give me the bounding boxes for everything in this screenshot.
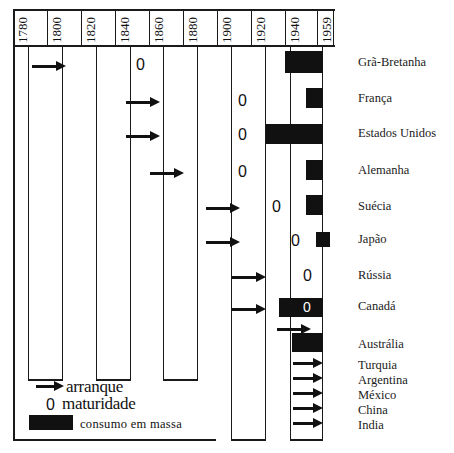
- arranque-arrow-russia: [232, 272, 266, 283]
- country-label-gra-bretanha: Grã-Bretanha: [358, 55, 426, 70]
- frame-bottom-border: [13, 439, 216, 441]
- arranque-arrow-alemanha: [150, 168, 184, 179]
- arranque-arrow-india: [293, 418, 323, 429]
- legend-arrow-icon: [36, 381, 64, 392]
- maturidade-zero-japao: 0: [291, 233, 300, 249]
- frame-top-border: [13, 9, 335, 11]
- axis-tick-1900-head: [217, 9, 218, 46]
- axis-year-label-1780: 1780: [16, 12, 29, 43]
- axis-tick-1840-head: [115, 9, 116, 46]
- legend-black-bar-icon: [29, 415, 73, 430]
- country-label-suecia: Suécia: [358, 199, 391, 214]
- axis-year-label-1959: 1959: [320, 12, 333, 43]
- legend-label-consumo-em-massa: consumo em massa: [80, 418, 182, 431]
- arranque-arrow-argentina: [293, 373, 323, 384]
- arranque-arrow-mexico: [293, 388, 323, 399]
- axis-year-label-1800: 1800: [50, 12, 63, 43]
- axis-year-label-1900: 1900: [220, 12, 233, 43]
- axis-year-label-1840: 1840: [118, 12, 131, 43]
- maturidade-zero-franca: 0: [238, 93, 247, 109]
- country-label-china: China: [358, 403, 388, 418]
- arranque-arrow-suecia: [206, 203, 240, 214]
- gridline-1780-right: [28, 47, 29, 380]
- legend-label-arranque: arranque: [66, 378, 123, 395]
- country-label-australia: Austrália: [358, 337, 404, 352]
- axis-tick-1940-head: [285, 9, 286, 46]
- column-cap-1940-1959: [290, 439, 323, 441]
- consumo-bar-franca: [306, 88, 323, 108]
- gridline-1920: [265, 47, 266, 440]
- consumo-bar-suecia: [306, 195, 323, 215]
- consumo-bar-canada: [279, 298, 323, 317]
- axis-tick-1820-head: [81, 9, 82, 46]
- country-label-estados-unidos: Estados Unidos: [358, 126, 436, 141]
- arranque-arrow-japao: [206, 237, 240, 248]
- country-label-canada: Canadá: [358, 299, 395, 314]
- axis-tick-1800-head: [47, 9, 48, 46]
- arranque-arrow-estados-unidos: [126, 131, 160, 142]
- country-label-india: India: [358, 418, 384, 433]
- axis-tick-1920-head: [251, 9, 252, 46]
- country-label-russia: Rússia: [358, 268, 391, 283]
- arranque-arrow-canada: [232, 304, 266, 315]
- gridline-1820: [96, 47, 97, 380]
- gridline-1800: [62, 47, 63, 380]
- axis-tick-1860-head: [149, 9, 150, 46]
- axis-year-label-1920: 1920: [254, 12, 267, 43]
- arranque-arrow-turquia: [293, 358, 323, 369]
- country-label-mexico: México: [358, 388, 396, 403]
- country-label-turquia: Turquia: [358, 358, 397, 373]
- axis-tick-1780-head: [13, 9, 14, 46]
- maturidade-zero-suecia: 0: [272, 199, 281, 215]
- maturidade-zero-gra-bretanha: 0: [136, 57, 145, 73]
- consumo-bar-japao: [316, 232, 330, 247]
- arranque-arrow-franca: [126, 97, 160, 108]
- consumo-bar-australia: [292, 333, 323, 352]
- axis-tick-1880-head: [183, 9, 184, 46]
- axis-year-label-1820: 1820: [84, 12, 97, 43]
- stages-of-growth-chart: 1780 1800 1820 1840 1860 1880 1900 1920 …: [0, 0, 454, 453]
- column-cap-1900-1920: [231, 439, 266, 441]
- country-label-alemanha: Alemanha: [358, 163, 409, 178]
- legend-label-maturidade: maturidade: [62, 395, 135, 412]
- axis-header-right-edge: [333, 9, 334, 46]
- gridline-1880: [197, 47, 198, 380]
- maturidade-zero-estados-unidos: 0: [238, 127, 247, 143]
- axis-tick-1959-head: [317, 9, 318, 46]
- axis-year-label-1940: 1940: [288, 12, 301, 43]
- axis-year-label-1860: 1860: [152, 12, 165, 43]
- consumo-bar-gra-bretanha: [285, 51, 323, 73]
- maturidade-zero-alemanha: 0: [238, 164, 247, 180]
- country-label-argentina: Argentina: [358, 373, 408, 388]
- consumo-bar-alemanha: [306, 160, 323, 180]
- consumo-bar-estados-unidos: [266, 124, 323, 144]
- maturidade-zero-russia: 0: [303, 268, 312, 284]
- column-cap-1860-1880: [163, 379, 198, 381]
- arranque-arrow-gra-bretanha: [32, 61, 66, 72]
- gridline-1860: [163, 47, 164, 380]
- country-label-franca: França: [358, 91, 392, 106]
- gridline-1780-left: [13, 47, 14, 440]
- country-label-japao: Japão: [358, 232, 386, 247]
- axis-year-label-1880: 1880: [186, 12, 199, 43]
- legend-zero-icon: 0: [46, 397, 55, 413]
- maturidade-zero-canada: 0: [303, 300, 311, 314]
- arranque-arrow-china: [293, 403, 323, 414]
